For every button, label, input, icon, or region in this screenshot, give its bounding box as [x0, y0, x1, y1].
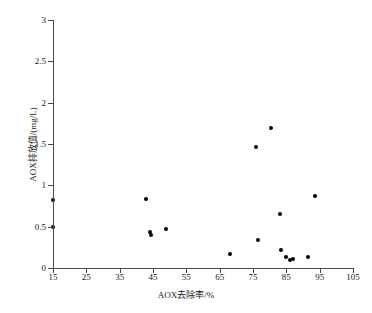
data-point: [149, 233, 153, 237]
y-tick-mark: [48, 185, 53, 186]
x-tick-label: 75: [238, 272, 268, 282]
x-tick-label: 85: [271, 272, 301, 282]
y-tick-label: 2: [42, 98, 47, 107]
x-tick-label: 55: [171, 272, 201, 282]
data-point: [144, 197, 148, 201]
y-tick-label: 1: [42, 181, 47, 190]
data-point: [256, 238, 260, 242]
x-tick-label: 35: [105, 272, 135, 282]
x-axis-line: [53, 268, 354, 269]
scatter-chart: 00.511.522.53 152535455565758595105 AOX去…: [0, 0, 372, 313]
x-tick-label: 105: [338, 272, 368, 282]
y-axis-line: [53, 20, 54, 269]
data-point: [306, 255, 310, 259]
data-point: [164, 227, 168, 231]
y-tick-mark: [48, 103, 53, 104]
y-axis-title: AOX排放值/(mg/L): [26, 20, 40, 269]
y-tick-mark: [48, 61, 53, 62]
x-axis-title: AOX去除率/%: [0, 288, 372, 301]
x-tick-label: 45: [138, 272, 168, 282]
data-point: [269, 126, 273, 130]
data-point: [291, 257, 295, 261]
x-tick-label: 15: [38, 272, 68, 282]
data-point: [228, 252, 232, 256]
y-tick-mark: [48, 144, 53, 145]
data-point: [254, 145, 258, 149]
data-point: [313, 194, 317, 198]
y-tick-mark: [48, 20, 53, 21]
plot-area: [0, 0, 372, 313]
x-tick-label: 65: [205, 272, 235, 282]
y-tick-mark: [48, 227, 53, 228]
x-tick-label: 95: [305, 272, 335, 282]
y-tick-label: 3: [42, 16, 47, 25]
data-point: [278, 212, 282, 216]
data-point: [279, 248, 283, 252]
x-tick-label: 25: [71, 272, 101, 282]
